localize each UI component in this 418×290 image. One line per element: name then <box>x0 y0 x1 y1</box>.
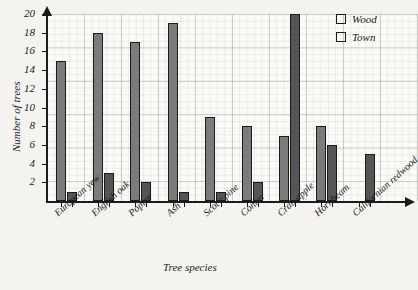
y-tick <box>42 89 48 90</box>
y-tick-label: 20 <box>13 8 35 19</box>
y-tick <box>42 182 48 183</box>
bar <box>316 126 326 201</box>
legend-label-town: Town <box>352 31 375 43</box>
bar <box>205 117 215 201</box>
y-tick <box>42 51 48 52</box>
bar <box>279 136 289 201</box>
bar <box>56 61 66 201</box>
x-tick <box>184 201 185 207</box>
y-tick <box>42 70 48 71</box>
legend-swatch-wood <box>336 14 346 24</box>
y-tick <box>42 164 48 165</box>
y-axis-title: Number of trees <box>10 82 22 152</box>
legend-item: Wood <box>336 12 377 25</box>
legend-label-wood: Wood <box>352 13 377 25</box>
x-axis-arrow <box>405 197 415 207</box>
bar <box>168 23 178 201</box>
y-tick-label: 2 <box>13 176 35 187</box>
bar <box>290 14 300 201</box>
legend-item: Town <box>336 30 377 43</box>
y-tick-label: 16 <box>13 45 35 56</box>
y-tick <box>42 126 48 127</box>
legend-swatch-town <box>336 32 346 42</box>
y-tick-label: 14 <box>13 64 35 75</box>
y-tick <box>42 108 48 109</box>
bar <box>179 192 189 201</box>
y-tick <box>42 33 48 34</box>
x-axis-title: Tree species <box>163 261 217 273</box>
bar-chart: 2468101214161820 European yewEnglish oak… <box>0 0 418 290</box>
chart-legend: Wood Town <box>336 12 377 48</box>
y-tick-label: 4 <box>13 158 35 169</box>
y-tick <box>42 14 48 15</box>
bar <box>242 126 252 201</box>
bar <box>130 42 140 201</box>
y-tick <box>42 145 48 146</box>
y-tick-label: 18 <box>13 27 35 38</box>
